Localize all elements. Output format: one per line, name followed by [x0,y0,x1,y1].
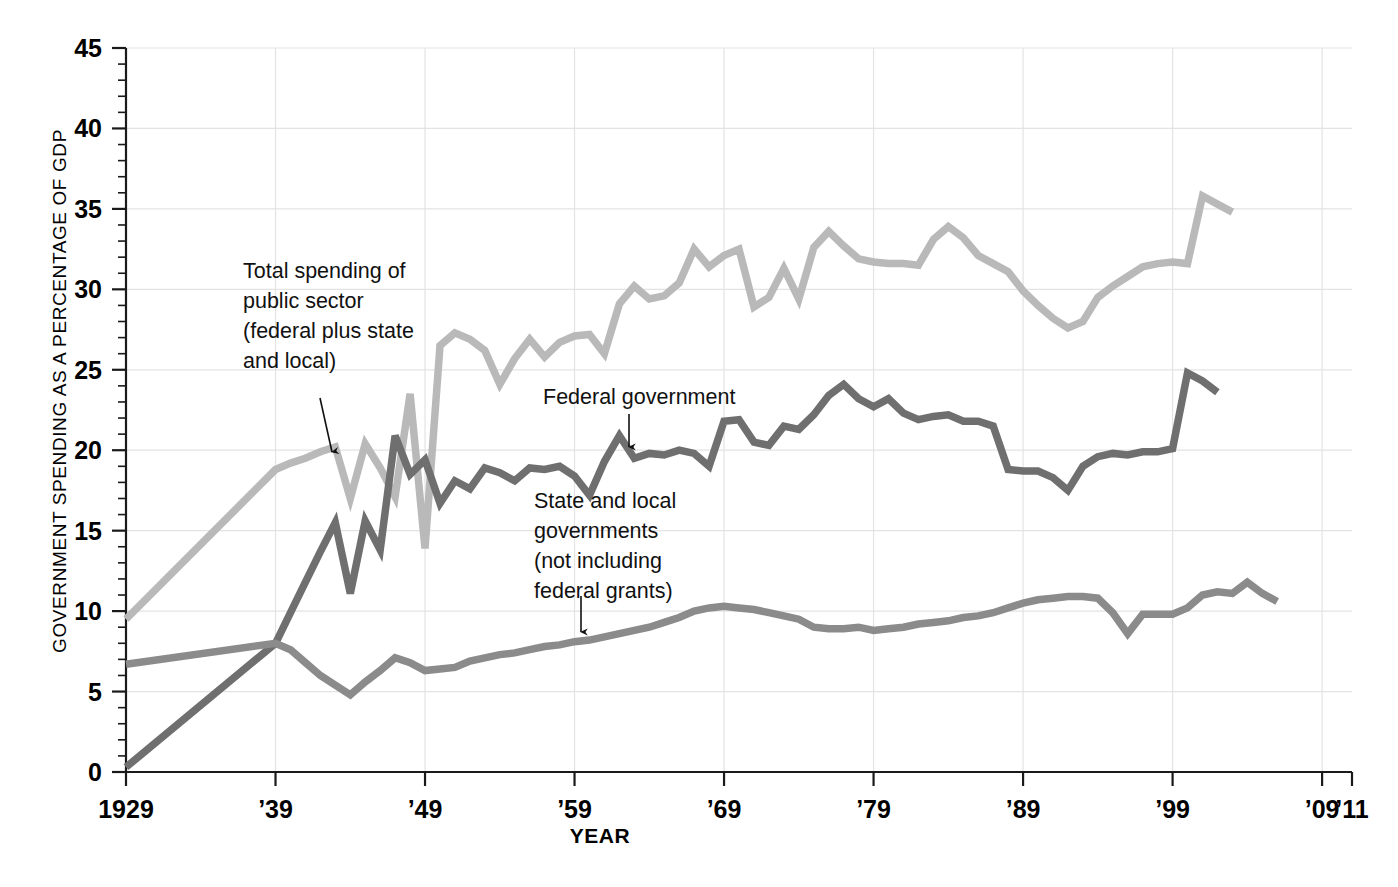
x-tick-label: ’39 [258,795,293,823]
x-axis-title: YEAR [570,824,630,847]
y-tick-label: 0 [88,758,102,786]
line-chart-canvas: 051015202530354045 1929’39’49’59’69’79’8… [0,0,1398,887]
x-tick-labels-group: 1929’39’49’59’69’79’89’99’09’11 [98,795,1369,823]
y-tick-label: 35 [74,195,102,223]
total-annotation-line-2: (federal plus state [243,319,414,343]
x-tick-label: 1929 [98,795,154,823]
y-tick-label: 25 [74,356,102,384]
federal-annotation-line-0: Federal government [543,385,735,409]
y-tick-label: 15 [74,517,102,545]
chart-figure: GOVERNMENT SPENDING AS A PERCENTAGE OF G… [0,0,1398,887]
total-annotation-line-0: Total spending of [243,259,406,283]
state-local-annotation-line-0: State and local [534,489,676,513]
y-tick-label: 45 [74,34,102,62]
state-local-annotation: State and local governments (not includi… [534,489,676,603]
x-tick-label: ’49 [408,795,443,823]
x-tick-label: ’69 [707,795,742,823]
total-annotation-line-1: public sector [243,289,364,313]
x-tick-label: ’89 [1006,795,1041,823]
y-tick-label: 40 [74,114,102,142]
y-tick-labels-group: 051015202530354045 [74,34,102,786]
total-annotation-line-3: and local) [243,349,336,373]
state-local-annotation-line-2: (not including [534,549,662,573]
y-tick-label: 30 [74,275,102,303]
x-tick-label: ’99 [1155,795,1190,823]
total-annotation: Total spending of public sector (federal… [243,259,414,373]
x-tick-label: ’59 [557,795,592,823]
x-tick-label: ’09 [1305,795,1340,823]
series-line [126,373,1217,767]
state-local-annotation-line-1: governments [534,519,658,543]
y-tick-label: 20 [74,436,102,464]
y-tick-label: 5 [88,678,102,706]
x-tick-label: ’11 [1335,795,1368,823]
state-local-annotation-line-3: federal grants) [534,579,673,603]
y-tick-label: 10 [74,597,102,625]
federal-annotation: Federal government [543,385,735,409]
total-annotation-arrow [320,398,332,452]
x-tick-label: ’79 [856,795,891,823]
